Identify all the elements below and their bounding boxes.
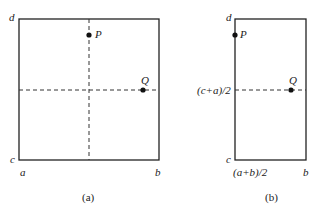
point-q-label: Q xyxy=(289,74,297,86)
axis-label-b: b xyxy=(303,166,309,178)
y-mid-label: (c+a)/2 xyxy=(197,84,231,97)
corner-label-d: d xyxy=(226,11,232,23)
point-p-marker xyxy=(232,32,237,37)
point-q-marker xyxy=(288,87,293,92)
point-q-label: Q xyxy=(141,74,149,86)
axis-label-a: a xyxy=(20,166,26,178)
x-mid-label: (a+b)/2 xyxy=(233,166,268,179)
corner-label-d: d xyxy=(9,11,15,23)
corner-label-c: c xyxy=(10,153,15,165)
diagram-canvas: P Q d c a b (a) P Q d c (c+a)/2 (a+b)/2 … xyxy=(0,0,317,210)
axis-label-b: b xyxy=(155,166,161,178)
point-q-marker xyxy=(140,87,145,92)
point-p-marker xyxy=(86,32,91,37)
point-p-label: P xyxy=(239,28,247,40)
caption-b: (b) xyxy=(265,191,278,204)
corner-label-c: c xyxy=(226,153,231,165)
panel-b: P Q d c (c+a)/2 (a+b)/2 b (b) xyxy=(197,11,309,204)
panel-a: P Q d c a b (a) xyxy=(9,11,161,204)
point-p-label: P xyxy=(94,28,102,40)
caption-a: (a) xyxy=(82,191,95,204)
